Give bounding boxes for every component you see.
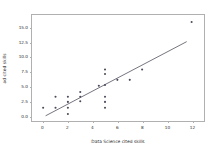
data-point bbox=[104, 68, 106, 70]
x-tick-mark bbox=[118, 121, 119, 123]
x-axis-title: Data Science cited skills bbox=[31, 139, 205, 144]
y-tick-label: 15.0 bbox=[10, 24, 28, 29]
x-tick-mark bbox=[193, 121, 194, 123]
y-tick-mark bbox=[30, 57, 32, 58]
y-tick-label: 2.5 bbox=[10, 98, 28, 103]
data-point bbox=[67, 107, 69, 109]
data-point bbox=[79, 91, 81, 93]
plot-area bbox=[31, 14, 205, 122]
data-point bbox=[116, 79, 118, 81]
data-point bbox=[79, 100, 81, 102]
data-point bbox=[104, 84, 106, 86]
x-tick-label: 6 bbox=[116, 125, 119, 130]
x-tick-label: 10 bbox=[165, 125, 170, 130]
y-tick-label: 10.0 bbox=[10, 54, 28, 59]
x-tick-mark bbox=[43, 121, 44, 123]
data-point bbox=[141, 68, 143, 70]
x-tick-mark bbox=[168, 121, 169, 123]
data-point bbox=[67, 96, 69, 98]
x-tick-label: 2 bbox=[66, 125, 69, 130]
x-tick-label: 12 bbox=[190, 125, 195, 130]
y-tick-mark bbox=[30, 117, 32, 118]
x-tick-label: 8 bbox=[141, 125, 144, 130]
x-tick-mark bbox=[143, 121, 144, 123]
y-tick-mark bbox=[30, 87, 32, 88]
data-layer bbox=[32, 15, 204, 121]
y-tick-label: 5.0 bbox=[10, 84, 28, 89]
x-axis-title-text: Data Science cited skills bbox=[91, 139, 144, 144]
regression-line bbox=[46, 42, 187, 116]
data-point bbox=[79, 96, 81, 98]
data-point bbox=[129, 79, 131, 81]
y-tick-mark bbox=[30, 72, 32, 73]
x-tick-label: 0 bbox=[41, 125, 44, 130]
data-point bbox=[67, 113, 69, 115]
y-tick-label: 0.0 bbox=[10, 113, 28, 118]
data-point bbox=[98, 85, 100, 87]
y-tick-label: 12.5 bbox=[10, 39, 28, 44]
x-tick-mark bbox=[68, 121, 69, 123]
y-axis-title: ad cited skills bbox=[0, 14, 9, 122]
data-point bbox=[104, 73, 106, 75]
data-point bbox=[67, 101, 69, 103]
data-point bbox=[54, 107, 56, 109]
data-point bbox=[42, 107, 44, 109]
scatter-plot-figure: ad cited skills 0.02.55.07.510.012.515.0… bbox=[0, 0, 216, 151]
y-axis-title-text: ad cited skills bbox=[2, 53, 7, 83]
data-point-group bbox=[42, 21, 193, 115]
data-point bbox=[104, 107, 106, 109]
y-tick-mark bbox=[30, 102, 32, 103]
y-tick-mark bbox=[30, 28, 32, 29]
data-point bbox=[191, 21, 193, 23]
data-point bbox=[54, 96, 56, 98]
data-point bbox=[104, 101, 106, 103]
x-tick-mark bbox=[93, 121, 94, 123]
y-tick-mark bbox=[30, 43, 32, 44]
x-tick-label: 4 bbox=[91, 125, 94, 130]
data-point bbox=[104, 96, 106, 98]
y-tick-label: 7.5 bbox=[10, 69, 28, 74]
